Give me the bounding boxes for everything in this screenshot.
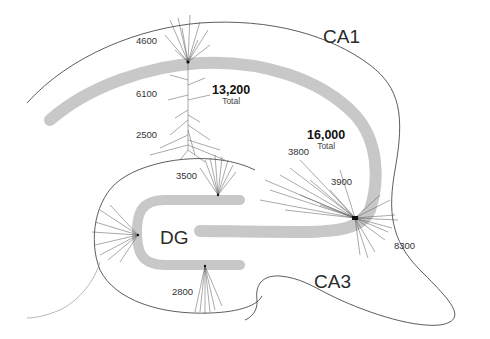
ca1-count-apical-tuft: 4600 [136,35,157,46]
ca3-count-apical-proximal: 3900 [331,176,352,187]
dg-count-upper-blade: 3500 [176,170,197,181]
ca1-total-label: Total [222,97,240,106]
ca3-total-label: Total [317,142,335,151]
hippocampus-diagram [0,0,490,339]
region-label-ca1: CA1 [323,26,360,48]
region-label-dg: DG [160,227,189,249]
ca3-total: 16,000 Total [307,129,345,151]
ca1-total: 13,200 Total [212,84,250,106]
ca1-count-apical-oblique: 6100 [136,88,157,99]
dg-count-lower-blade: 2800 [172,286,193,297]
ca3-count-basal: 8300 [394,240,415,251]
region-label-ca3: CA3 [314,271,351,293]
ca1-count-basal: 2500 [136,129,157,140]
dg-lower-neuron [195,265,222,314]
ca3-count-apical-distal: 3800 [288,146,309,157]
fimbria-line [27,262,100,318]
